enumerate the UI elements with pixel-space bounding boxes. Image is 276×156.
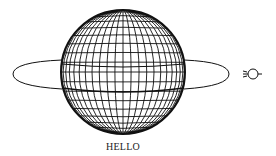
planet-diagram xyxy=(0,0,276,156)
globe xyxy=(61,10,185,135)
ring xyxy=(13,60,229,89)
diagram-label: HELLO xyxy=(0,141,246,152)
sun-symbol-icon xyxy=(243,69,262,79)
